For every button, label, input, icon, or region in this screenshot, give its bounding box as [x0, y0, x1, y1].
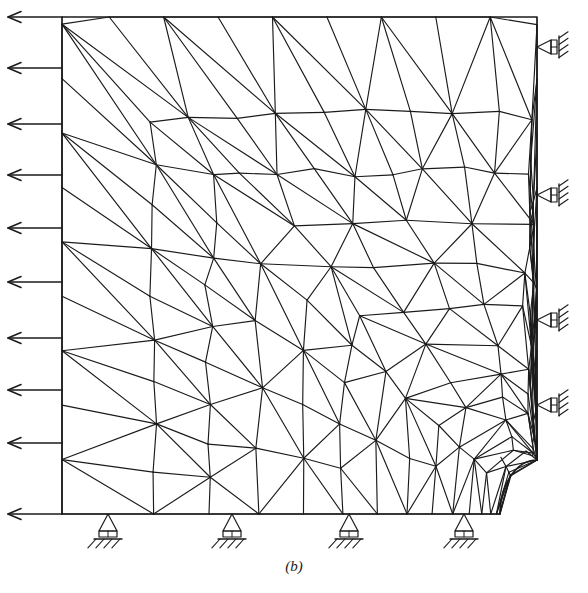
roller-triangle: [455, 514, 473, 531]
roller-triangle: [340, 514, 358, 531]
roller-triangle: [99, 514, 117, 531]
roller-triangle: [537, 398, 551, 412]
mesh-layer: [62, 17, 537, 514]
roller-triangle: [537, 188, 551, 202]
roller-triangle: [537, 313, 551, 327]
support-symbol-group: [88, 32, 568, 548]
finite-element-mesh-figure: [0, 0, 588, 593]
figure-caption: (b): [0, 558, 588, 575]
traction-arrow-group: [8, 12, 62, 520]
roller-triangle: [537, 40, 551, 54]
roller-triangle: [223, 514, 241, 531]
